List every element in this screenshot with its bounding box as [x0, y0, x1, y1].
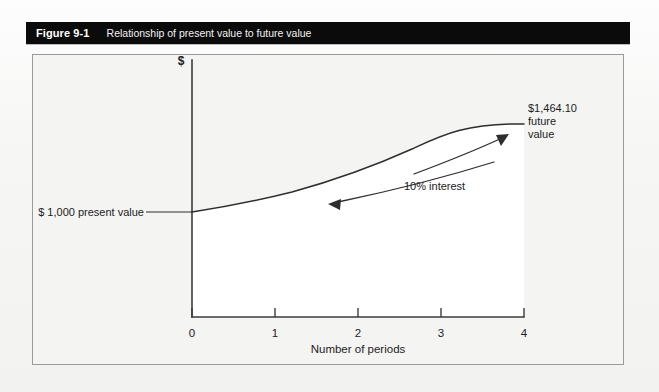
- future-value-label-line-3: value: [528, 128, 554, 140]
- figure-page: Figure 9-1 Relationship of present value…: [0, 0, 659, 392]
- future-value-label-line-1: $1,464.10: [528, 102, 577, 114]
- x-tick-label-2: 2: [355, 327, 361, 339]
- x-tick-label-1: 1: [272, 327, 278, 339]
- present-value-label: $ 1,000 present value: [38, 206, 144, 218]
- x-tick-label-3: 3: [438, 327, 444, 339]
- future-value-label-line-2: future: [528, 115, 556, 127]
- x-tick-label-0: 0: [189, 327, 195, 339]
- plot-area-fill: [192, 124, 524, 317]
- chart-canvas: 0 1 2 3 4 $ Number of periods $ 1,000 pr…: [26, 22, 630, 368]
- figure-container: Figure 9-1 Relationship of present value…: [26, 22, 630, 368]
- x-tick-label-4: 4: [521, 327, 528, 339]
- x-axis-label: Number of periods: [311, 343, 406, 355]
- interest-rate-label: 10% interest: [404, 180, 465, 192]
- y-axis-label: $: [178, 54, 185, 68]
